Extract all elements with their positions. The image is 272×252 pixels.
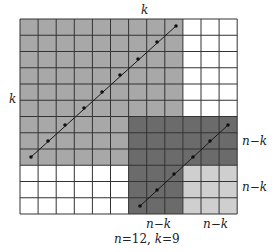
diagonal-dot — [138, 204, 142, 208]
label-right-upper-n-minus-k: n−k — [242, 134, 267, 148]
diagonal-dot — [82, 106, 86, 110]
caption: n=12, k=9 — [114, 232, 180, 246]
diagonal-dot — [136, 57, 140, 61]
diagonal-dot — [100, 90, 104, 94]
region-light-corner — [183, 165, 237, 214]
diagonal-dot — [155, 40, 159, 44]
label-bottom-left-n-minus-k: n−k — [146, 217, 171, 231]
diagonal-dot — [63, 123, 67, 127]
label-left-k: k — [9, 92, 16, 106]
label-right-lower-n-minus-k: n−k — [242, 180, 267, 194]
diagonal-dot — [208, 139, 212, 143]
diagonal-dot — [226, 123, 230, 127]
grid-diagram: k k n−k n−k n−k n−k n=12, k=9 — [0, 0, 272, 252]
diagonal-dot — [118, 73, 122, 77]
label-top-k: k — [141, 3, 148, 17]
diagonal-dot — [46, 139, 50, 143]
diagonal-dot — [174, 24, 178, 28]
diagonal-dot — [155, 188, 159, 192]
diagonal-dot — [29, 155, 33, 159]
diagonal-dot — [172, 172, 176, 176]
label-bottom-right-n-minus-k: n−k — [203, 217, 228, 231]
diagonal-dot — [191, 155, 195, 159]
